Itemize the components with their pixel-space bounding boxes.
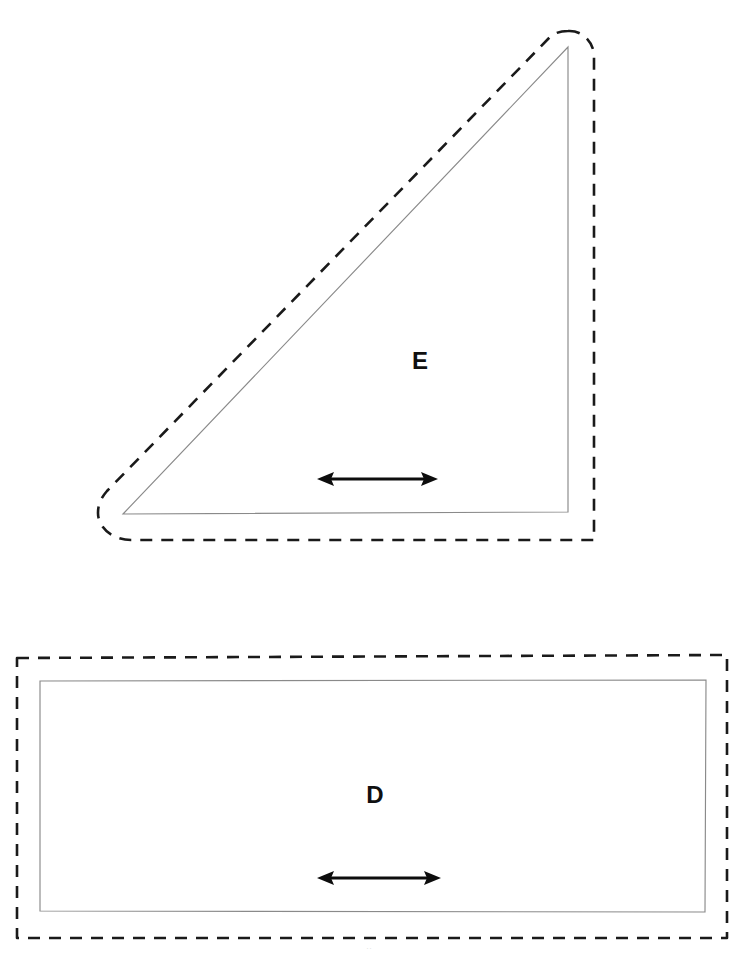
page-bottom-artifact: ·· xyxy=(366,943,372,953)
pattern-sheet: E D ·· xyxy=(0,0,738,954)
piece-label-d: D xyxy=(366,781,383,808)
piece-label-e: E xyxy=(412,347,428,374)
grain-line-d xyxy=(317,871,441,885)
pattern-piece-d[interactable]: D xyxy=(17,655,727,938)
pattern-drawing-canvas: E D ·· xyxy=(0,0,738,954)
pattern-piece-e[interactable]: E xyxy=(98,31,594,540)
grain-line-e xyxy=(317,472,438,486)
cutting-line-e xyxy=(98,31,594,540)
seam-line-e xyxy=(123,47,568,514)
